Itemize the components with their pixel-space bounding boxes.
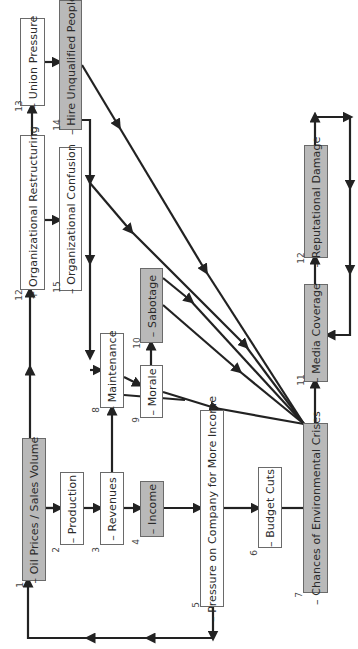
node-number: 9 (131, 417, 141, 423)
edge-reputational-media (330, 270, 350, 335)
node-label: – Union Pressure (26, 16, 39, 109)
node-number: 10 (132, 337, 142, 348)
node-label: – Sabotage (145, 274, 158, 336)
node-number: 12 (14, 289, 24, 300)
node-reputational-damage: – Reputational Damage (304, 145, 328, 258)
node-label: – Maintenance (106, 330, 119, 411)
node-morale: – Morale (140, 365, 163, 418)
node-label: – Budget Cuts (264, 468, 277, 546)
node-label: – Income (146, 484, 159, 534)
node-label: – Revenues (106, 477, 119, 541)
node-number: 11 (296, 374, 306, 385)
node-union-pressure: – Union Pressure (20, 18, 45, 106)
node-label: – Hire Unqualified People (64, 0, 77, 135)
node-label: – Chances of Environmental Crises (309, 411, 322, 605)
node-number: 5 (191, 602, 201, 608)
node-maintenance: – Maintenance (100, 333, 124, 408)
node-label: – Reputational Damage (310, 136, 323, 267)
node-number: 1 (15, 582, 25, 588)
node-number: 8 (91, 407, 101, 413)
node-sabotage: – Sabotage (140, 268, 163, 343)
node-number: 3 (91, 547, 101, 553)
edge-hire-chances (205, 270, 304, 424)
node-label: – Oil Prices / Sales Volume (28, 436, 41, 583)
node-number: 15 (52, 281, 62, 292)
node-oil-prices: – Oil Prices / Sales Volume (22, 438, 46, 581)
node-label: + Organizational Restructuring (26, 126, 39, 300)
node-number: 7 (294, 592, 304, 598)
node-label: – Production (66, 474, 79, 543)
node-org-restructuring: + Organizational Restructuring (20, 135, 45, 290)
node-revenues: – Revenues (100, 472, 124, 545)
node-label: – Pressure on Company for More Income (206, 395, 219, 621)
node-number: 13 (14, 100, 24, 111)
node-chances-env-crises: – Chances of Environmental Crises (303, 423, 328, 593)
node-number: 12 (296, 252, 306, 263)
edge-maintenance-morale (124, 377, 138, 384)
node-number: 14 (52, 119, 62, 130)
node-number: 4 (131, 539, 141, 545)
node-number: 6 (249, 550, 259, 556)
node-pressure: – Pressure on Company for More Income (200, 410, 224, 607)
edge-pressure-oil (28, 582, 90, 638)
node-production: – Production (60, 472, 84, 545)
node-label: – Organizational Confusion (64, 144, 77, 294)
node-org-confusion: – Organizational Confusion (59, 147, 82, 291)
node-media-coverage: – Media Coverage (304, 284, 328, 382)
node-label: – Media Coverage (310, 283, 323, 383)
node-budget-cuts: – Budget Cuts (258, 467, 282, 548)
node-hire-unqualified: – Hire Unqualified People (59, 0, 82, 130)
node-number: 2 (51, 547, 61, 553)
node-label: – Morale (145, 368, 158, 415)
node-income: – Income (140, 481, 164, 537)
